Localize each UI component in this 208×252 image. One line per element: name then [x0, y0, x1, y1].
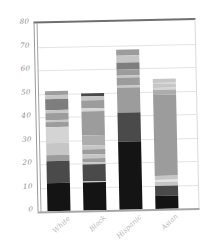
bar-segment — [46, 127, 69, 143]
x-tick-label-white: White — [51, 215, 72, 235]
y-tick-label-60: 60 — [8, 65, 30, 73]
bar-segment — [82, 135, 105, 146]
y-tick-label-40: 40 — [9, 112, 31, 120]
bar-segment — [155, 186, 178, 197]
bar-segment — [117, 88, 141, 113]
x-axis-labels: WhiteBlackHispanicAsian — [0, 0, 205, 2]
bar-segment — [81, 111, 105, 136]
gridline-70 — [38, 44, 195, 48]
bar-segment — [155, 196, 178, 209]
bar-asian — [153, 78, 179, 209]
y-tick-label-80: 80 — [7, 18, 29, 26]
bar-segment — [118, 142, 142, 210]
y-tick-label-70: 70 — [8, 41, 30, 49]
bar-segment — [46, 160, 69, 183]
y-tick-label-20: 20 — [10, 159, 32, 167]
stacked-bar-chart: 80706050403020100 WhiteBlackHispanicAsia… — [0, 0, 208, 252]
plot-area — [34, 18, 200, 211]
bar-segment — [117, 112, 141, 142]
chart-canvas: 80706050403020100 WhiteBlackHispanicAsia… — [0, 0, 208, 252]
y-tick-label-10: 10 — [11, 182, 33, 190]
y-tick-label-0: 0 — [11, 205, 33, 213]
bar-black — [81, 93, 106, 211]
bar-hispanic — [116, 49, 142, 210]
bar-segment — [153, 94, 178, 176]
x-tick-label-asian: Asian — [160, 213, 180, 232]
bar-segment — [46, 143, 69, 156]
bar-segment — [47, 183, 71, 212]
y-tick-label-30: 30 — [10, 135, 32, 143]
x-tick-label-hispanic: Hispanic — [115, 213, 143, 240]
bar-white — [45, 91, 71, 211]
x-tick-label-black: Black — [88, 214, 108, 233]
y-axis-labels: 80706050403020100 — [0, 0, 205, 2]
y-axis-line — [37, 23, 42, 213]
bar-segment — [83, 164, 106, 181]
bar-segment — [45, 99, 68, 110]
gridlines — [35, 20, 195, 23]
bar-segment — [83, 182, 107, 210]
y-tick-label-50: 50 — [9, 88, 31, 96]
bars-group — [35, 20, 195, 23]
